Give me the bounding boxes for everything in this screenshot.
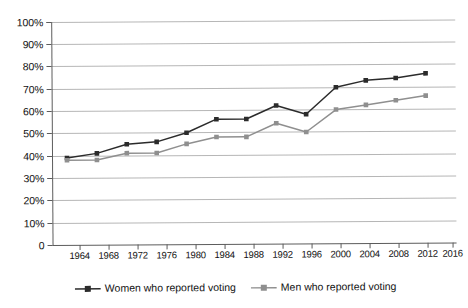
series-line: [66, 73, 426, 158]
data-point-marker: [274, 121, 279, 126]
data-point-marker: [423, 71, 428, 76]
chart-plate: 100% 90% 80% 70% 60% 50% 40% 30% 20% 10%…: [0, 0, 457, 308]
data-point-marker: [214, 135, 219, 140]
data-point-marker: [244, 117, 249, 122]
data-point-marker: [154, 140, 159, 145]
data-point-marker: [95, 151, 100, 156]
data-point-marker: [393, 76, 398, 81]
legend-marker-men: [251, 283, 277, 293]
data-point-marker: [95, 158, 100, 163]
data-point-marker: [304, 112, 309, 117]
data-point-marker: [124, 151, 129, 156]
legend-label-men: Men who reported voting: [281, 280, 397, 293]
data-point-marker: [184, 130, 189, 135]
data-point-marker: [394, 98, 399, 103]
data-point-marker: [363, 78, 368, 83]
data-point-marker: [304, 130, 309, 135]
data-point-marker: [334, 107, 339, 112]
data-point-marker: [124, 142, 129, 147]
legend-label-women: Women who reported voting: [105, 281, 236, 294]
data-point-marker: [65, 158, 70, 163]
series-layer: [0, 0, 457, 308]
data-point-marker: [423, 93, 428, 98]
data-point-marker: [334, 85, 339, 90]
series-group: [64, 71, 428, 163]
series-line: [67, 96, 426, 161]
data-point-marker: [184, 142, 189, 147]
data-point-marker: [274, 103, 279, 108]
data-point-marker: [154, 151, 159, 156]
data-point-marker: [364, 103, 369, 108]
data-point-marker: [214, 117, 219, 122]
data-point-marker: [244, 135, 249, 140]
legend-marker-women: [75, 284, 101, 294]
